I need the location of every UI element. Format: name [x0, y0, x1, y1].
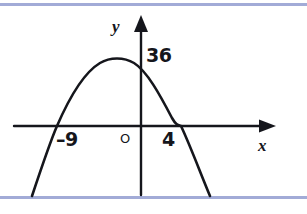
parabola-graph: [0, 0, 307, 214]
figure-container: y x 36 –9 4 O: [0, 0, 307, 214]
x-axis: [14, 120, 276, 133]
left-root-label: –9: [56, 130, 78, 149]
y-intercept-label: 36: [146, 46, 171, 65]
y-axis-label: y: [112, 18, 120, 35]
origin-label: O: [120, 132, 130, 145]
y-axis-arrowhead: [134, 15, 148, 32]
y-axis: [134, 15, 148, 195]
right-root-label: 4: [162, 130, 175, 149]
x-axis-arrowhead: [259, 120, 276, 133]
x-axis-label: x: [258, 137, 267, 154]
